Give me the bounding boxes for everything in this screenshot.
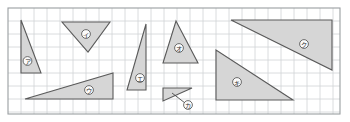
triangle-e-label-text: エ	[137, 75, 143, 82]
figure-canvas: アイウエオカキク	[0, 0, 350, 122]
triangle-u-label-text: ウ	[86, 87, 92, 94]
triangle-i-label-text: イ	[83, 31, 89, 38]
triangle-a-label-text: ア	[25, 58, 31, 65]
triangle-ki-label-text: キ	[234, 79, 240, 86]
triangle-ku-label-text: ク	[301, 41, 307, 48]
triangle-grid-figure: アイウエオカキク	[0, 0, 350, 122]
triangle-o-label-text: オ	[176, 45, 182, 52]
triangle-ka-label-text: カ	[185, 102, 191, 109]
